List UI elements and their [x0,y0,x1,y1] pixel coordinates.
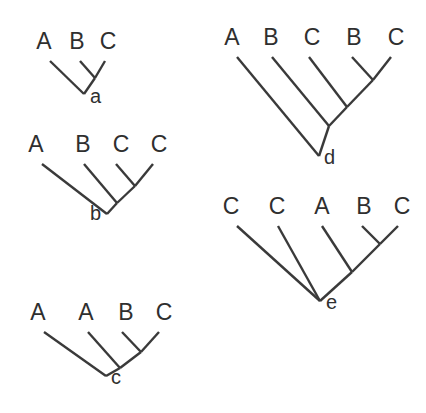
tip-label-d-1: A [224,24,240,50]
tip-label-c-1: A [30,299,46,325]
tip-label-a-3: C [100,28,117,54]
tree-node-label-c: c [111,366,121,388]
tip-label-b-4: C [151,131,168,157]
tip-label-e-1: C [223,193,240,219]
tip-label-e-2: C [269,193,286,219]
tree-node-label-a: a [90,85,102,107]
tip-label-c-3: B [118,299,133,325]
tip-label-c-2: A [78,299,94,325]
tip-label-e-4: B [356,193,371,219]
tip-label-d-3: C [304,24,321,50]
tip-label-d-5: C [388,24,405,50]
tip-label-d-2: B [263,24,278,50]
tip-label-d-4: B [346,24,361,50]
tree-node-label-e: e [326,291,337,313]
tree-node-label-b: b [90,202,101,224]
tip-label-b-1: A [28,131,44,157]
tip-label-c-4: C [156,299,173,325]
tip-label-e-5: C [394,193,411,219]
tree-node-label-d: d [324,146,335,168]
tip-label-e-3: A [314,193,330,219]
tip-label-b-2: B [75,131,90,157]
tip-label-a-1: A [36,28,52,54]
tip-label-a-2: B [69,28,84,54]
tip-label-b-3: C [113,131,130,157]
cladogram-figure: ABCaABCCbAABCcABCBCdCCABCe [0,0,426,413]
